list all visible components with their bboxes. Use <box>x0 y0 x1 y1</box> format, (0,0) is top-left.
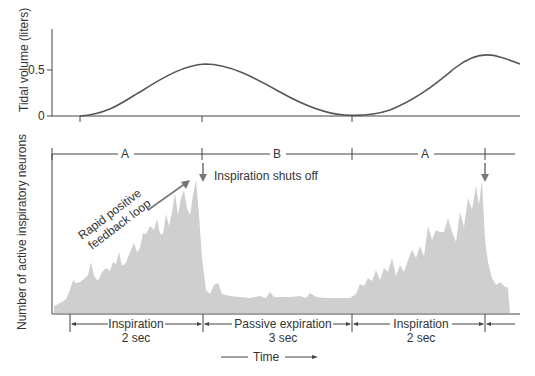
phase-insp1: Inspiration <box>108 317 163 331</box>
tidal-volume-chart: Tidal volume (liters) 0.5 0 <box>17 8 520 123</box>
phase-insp2: Inspiration <box>393 317 448 331</box>
shutoff-arrow-1 <box>199 163 207 182</box>
phase-expiration: Passive expiration <box>234 317 331 331</box>
shutoff-arrow-2 <box>481 163 489 182</box>
y-axis-label-neurons: Number of active inspiratory neurons <box>15 134 29 330</box>
phase-expiration-duration: 3 sec <box>269 331 298 345</box>
time-label: Time <box>253 350 280 364</box>
tidal-volume-curve <box>80 55 520 116</box>
neuron-activity-chart: Number of active inspiratory neurons A B… <box>15 134 520 364</box>
y-axis-label-tidal: Tidal volume (liters) <box>17 8 31 112</box>
tick-label-0: 0 <box>38 109 45 123</box>
phase-label-a1: A <box>121 147 129 161</box>
phase-label-b: B <box>273 147 281 161</box>
respiration-diagram: Tidal volume (liters) 0.5 0 Number of ac… <box>0 0 535 376</box>
phase-insp2-duration: 2 sec <box>407 331 436 345</box>
time-arrowhead-icon <box>312 355 318 359</box>
tick-label-05: 0.5 <box>28 63 45 77</box>
phase-label-a2: A <box>421 147 429 161</box>
shutoff-label: Inspiration shuts off <box>214 169 319 183</box>
phase-insp1-duration: 2 sec <box>122 331 151 345</box>
